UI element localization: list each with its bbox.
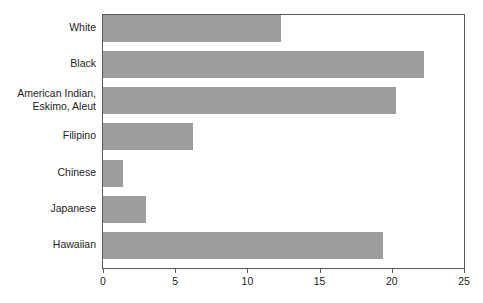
x-tick-mark <box>175 269 176 273</box>
bar <box>103 123 193 150</box>
category-label: White <box>0 21 96 34</box>
category-label: American Indian, Eskimo, Aleut <box>0 87 96 112</box>
bar-row <box>103 232 464 259</box>
x-tick-mark <box>247 269 248 273</box>
bar-row <box>103 123 464 150</box>
bar-row <box>103 87 464 114</box>
x-tick-label: 20 <box>372 275 412 287</box>
bar-row <box>103 51 464 78</box>
x-tick-label: 5 <box>155 275 195 287</box>
bar-chart: WhiteBlackAmerican Indian, Eskimo, Aleut… <box>0 0 483 303</box>
bar <box>103 87 396 114</box>
x-tick-label: 0 <box>83 275 123 287</box>
bar <box>103 232 383 259</box>
x-tick-label: 15 <box>300 275 340 287</box>
x-tick-label: 10 <box>227 275 267 287</box>
category-label: Chinese <box>0 166 96 179</box>
bar <box>103 51 424 78</box>
bar <box>103 160 123 187</box>
category-label: Filipino <box>0 129 96 142</box>
bars-layer <box>103 15 464 268</box>
bar-row <box>103 160 464 187</box>
x-axis: 0510152025 <box>102 269 465 299</box>
category-label: Japanese <box>0 202 96 215</box>
x-tick-mark <box>320 269 321 273</box>
bar-row <box>103 15 464 42</box>
category-label: Hawaiian <box>0 238 96 251</box>
bar <box>103 15 281 42</box>
x-tick-mark <box>103 269 104 273</box>
x-tick-mark <box>392 269 393 273</box>
bar <box>103 196 146 223</box>
bar-row <box>103 196 464 223</box>
x-tick-label: 25 <box>444 275 483 287</box>
category-axis-labels: WhiteBlackAmerican Indian, Eskimo, Aleut… <box>0 14 96 269</box>
x-tick-mark <box>464 269 465 273</box>
category-label: Black <box>0 57 96 70</box>
